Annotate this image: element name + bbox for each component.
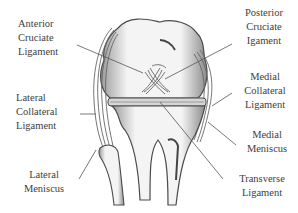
label-line: Cruciate bbox=[18, 31, 58, 45]
label-line: Collateral bbox=[16, 105, 57, 119]
label-line: Meniscus bbox=[20, 182, 68, 196]
label-line: Transverse bbox=[232, 172, 292, 186]
label-line: Collateral bbox=[237, 84, 293, 98]
label-medial-collateral-ligament: Medial Collateral Ligament bbox=[237, 70, 293, 112]
label-line: Cruciate bbox=[236, 20, 292, 34]
label-line: Medial bbox=[237, 70, 293, 84]
label-line: Ligament bbox=[18, 45, 58, 59]
leader-medial-meniscus bbox=[208, 122, 236, 145]
leader-medial-collateral bbox=[212, 93, 232, 106]
label-line: Lateral bbox=[16, 91, 57, 105]
label-line: Lateral bbox=[20, 168, 68, 182]
label-lateral-collateral-ligament: Lateral Collateral Ligament bbox=[16, 91, 57, 133]
label-line: Ligament bbox=[232, 186, 292, 200]
label-lateral-meniscus: Lateral Meniscus bbox=[20, 168, 68, 196]
label-line: Ligament bbox=[237, 98, 293, 112]
label-line: Posterior bbox=[236, 6, 292, 20]
label-line: Meniscus bbox=[240, 142, 294, 156]
label-line: Ligament bbox=[16, 119, 57, 133]
fibula bbox=[99, 145, 124, 205]
label-line: Medial bbox=[240, 128, 294, 142]
label-line: Igament bbox=[236, 34, 292, 48]
label-medial-meniscus: Medial Meniscus bbox=[240, 128, 294, 156]
label-line: Anterior bbox=[18, 17, 58, 31]
tibia bbox=[112, 106, 205, 205]
label-anterior-cruciate-ligament: Anterior Cruciate Ligament bbox=[18, 17, 58, 59]
leader-lateral-meniscus bbox=[79, 150, 96, 179]
label-transverse-ligament: Transverse Ligament bbox=[232, 172, 292, 200]
label-posterior-cruciate-ligament: Posterior Cruciate Igament bbox=[236, 6, 292, 48]
